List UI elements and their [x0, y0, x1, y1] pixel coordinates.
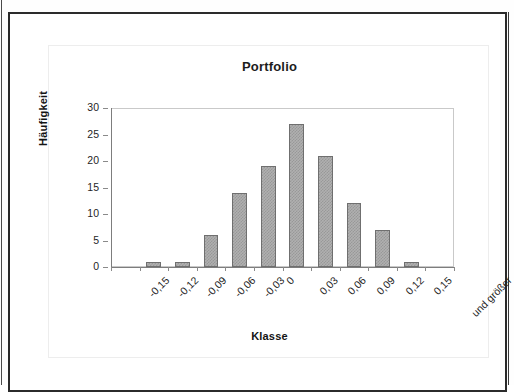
x-tick-label: -0,12: [175, 274, 200, 299]
chart-title: Portfolio: [49, 59, 490, 74]
x-tick-label: -0,09: [203, 274, 228, 299]
x-tick-label: -0,03: [261, 274, 286, 299]
x-tick-label: -0,15: [146, 274, 171, 299]
y-tick-label: 25: [87, 128, 99, 140]
x-tick-mark: [340, 267, 341, 271]
y-tick-label: 0: [93, 260, 99, 272]
bar: [232, 193, 247, 267]
x-tick-label: -0,06: [232, 274, 257, 299]
y-tick-mark: [103, 241, 108, 242]
page-edge-line-left: [1, 0, 2, 385]
x-tick-mark: [140, 267, 141, 271]
x-tick-mark: [225, 267, 226, 271]
x-axis-title: Klasse: [49, 330, 490, 342]
y-tick-mark: [103, 188, 108, 189]
x-tick-mark: [254, 267, 255, 271]
x-tick-mark: [397, 267, 398, 271]
document-frame: Portfolio Häufigkeit 051015202530 -0,15-…: [8, 12, 507, 392]
x-tick-label: und größer: [469, 274, 514, 319]
bar: [318, 156, 333, 267]
page-edge-line-right: [508, 12, 509, 385]
bar: [204, 235, 219, 267]
y-tick-label: 10: [87, 207, 99, 219]
x-tick-label: 0,12: [403, 274, 426, 297]
x-tick-label: 0,03: [317, 274, 340, 297]
chart-area: Portfolio Häufigkeit 051015202530 -0,15-…: [48, 45, 489, 358]
x-tick-mark: [111, 267, 112, 271]
bar: [404, 262, 419, 267]
x-tick-mark: [454, 267, 455, 271]
x-tick-mark: [425, 267, 426, 271]
x-tick-label: 0,09: [374, 274, 397, 297]
y-tick-label: 30: [87, 101, 99, 113]
y-tick-mark: [103, 214, 108, 215]
x-tick-mark: [168, 267, 169, 271]
bar: [175, 262, 190, 267]
y-tick-label: 5: [93, 234, 99, 246]
x-tick-mark: [197, 267, 198, 271]
y-tick-label: 20: [87, 154, 99, 166]
y-tick-mark: [103, 161, 108, 162]
y-tick-label: 15: [87, 181, 99, 193]
x-tick-mark: [283, 267, 284, 271]
bars-layer: [111, 108, 454, 267]
bar: [289, 124, 304, 267]
y-tick-mark: [103, 267, 108, 268]
bar: [146, 262, 161, 267]
x-tick-label: 0: [284, 274, 297, 287]
bar: [347, 203, 362, 267]
x-tick-mark: [311, 267, 312, 271]
y-axis-title: Häufigkeit: [37, 91, 49, 146]
x-tick-mark: [368, 267, 369, 271]
y-tick-mark: [103, 135, 108, 136]
bar: [261, 166, 276, 267]
x-tick-label: 0,15: [431, 274, 454, 297]
bar: [375, 230, 390, 267]
y-tick-mark: [103, 108, 108, 109]
x-tick-label: 0,06: [345, 274, 368, 297]
